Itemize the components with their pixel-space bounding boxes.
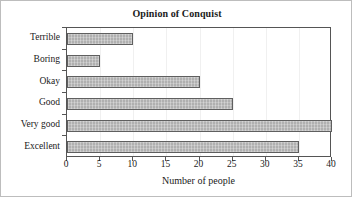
bar-good: [67, 98, 233, 110]
x-axis-tick-label: 10: [120, 159, 144, 170]
bar-excellent: [67, 141, 299, 153]
bar-okay: [67, 76, 200, 88]
x-axis-tick-label: 15: [153, 159, 177, 170]
y-axis-tick: [62, 135, 66, 136]
y-axis-label-excellent: Excellent: [24, 141, 60, 152]
x-axis-title: Number of people: [66, 175, 331, 187]
x-axis-tick-label: 30: [253, 159, 277, 170]
bar-chart: Opinion of Conquist TerribleBoringOkayGo…: [0, 0, 352, 197]
plot-area: [66, 27, 331, 157]
y-axis-tick: [62, 114, 66, 115]
bar-boring: [67, 55, 100, 67]
y-axis-label-okay: Okay: [39, 76, 60, 87]
chart-title: Opinion of Conquist: [1, 8, 352, 20]
bar-very-good: [67, 120, 332, 132]
x-axis-tick-label: 35: [286, 159, 310, 170]
y-axis-label-terrible: Terrible: [30, 32, 60, 43]
y-axis-tick: [62, 49, 66, 50]
x-axis-tick-label: 25: [220, 159, 244, 170]
y-axis-tick: [62, 70, 66, 71]
x-axis-tick-label: 20: [187, 159, 211, 170]
y-axis-label-good: Good: [39, 97, 60, 108]
bars-layer: [67, 28, 330, 156]
y-axis-tick: [62, 27, 66, 28]
x-axis-tick-label: 0: [54, 159, 78, 170]
y-axis-tick: [62, 92, 66, 93]
y-axis-label-very-good: Very good: [21, 119, 60, 130]
y-axis-label-boring: Boring: [34, 54, 60, 65]
x-axis-tick-label: 40: [319, 159, 343, 170]
bar-terrible: [67, 33, 133, 45]
x-axis-tick-label: 5: [87, 159, 111, 170]
